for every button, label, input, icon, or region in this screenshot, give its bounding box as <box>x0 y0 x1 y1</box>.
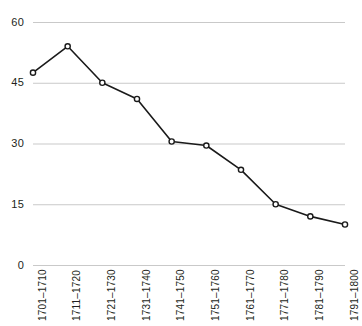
y-axis-tick-label: 15 <box>0 199 24 210</box>
data-point-group <box>30 44 347 227</box>
x-axis-tick-label: 1771–1780 <box>280 269 290 321</box>
y-axis-tick-label: 30 <box>0 138 24 149</box>
x-axis-tick-label: 1731–1740 <box>142 269 152 321</box>
y-axis-tick-label: 60 <box>0 17 24 28</box>
y-axis-tick-label: 45 <box>0 77 24 88</box>
x-axis-tick-label: 1721–1730 <box>107 269 117 321</box>
data-point <box>238 167 243 172</box>
data-point <box>65 44 70 49</box>
x-axis-tick-label: 1781–1790 <box>315 269 325 321</box>
x-axis-tick-label: 1791–1800 <box>350 269 360 321</box>
series-line <box>33 46 345 224</box>
data-point <box>308 214 313 219</box>
x-axis-tick-label: 1751–1760 <box>211 269 221 321</box>
data-point <box>342 222 347 227</box>
data-point <box>134 96 139 101</box>
x-axis-tick-label: 1701–1710 <box>38 269 48 321</box>
y-axis-tick-label: 0 <box>0 260 24 271</box>
line-chart: 015304560 1701–17101711–17201721–1730173… <box>0 0 362 326</box>
data-point <box>30 70 35 75</box>
data-point <box>100 80 105 85</box>
data-point <box>273 202 278 207</box>
x-axis-tick-label: 1761–1770 <box>246 269 256 321</box>
data-point <box>204 143 209 148</box>
series-line-group <box>33 46 345 224</box>
x-axis-tick-label: 1711–1720 <box>72 270 82 321</box>
x-axis-tick-label: 1741–1750 <box>176 269 186 321</box>
data-point <box>169 139 174 144</box>
